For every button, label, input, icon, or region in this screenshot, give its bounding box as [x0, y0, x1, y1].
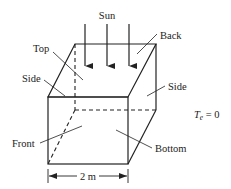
- label-front: Front: [12, 138, 35, 149]
- leader-lines: [40, 34, 165, 148]
- sun-rays-icon: [85, 24, 129, 66]
- label-back: Back: [160, 30, 182, 41]
- label-side-left: Side: [22, 73, 41, 84]
- label-side-right: Side: [168, 81, 187, 92]
- sun-label: Sun: [99, 10, 116, 21]
- label-bottom: Bottom: [155, 143, 187, 154]
- label-top: Top: [33, 43, 49, 54]
- box-diagram: Sun Top Back Side Side Front Bottom Te =…: [0, 0, 231, 189]
- dimension-label: 2 m: [80, 171, 96, 182]
- env-temperature: Te = 0: [194, 109, 220, 122]
